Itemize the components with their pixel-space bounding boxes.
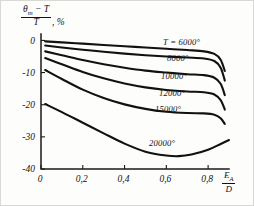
curve-label: 10000° <box>161 71 187 81</box>
figure-chart-theta-deviation: θm − T T , % EA D 0-10-20-30-40 00,20,40… <box>0 0 254 206</box>
y-tick-label: -10 <box>22 68 35 78</box>
x-tick-label: 0,4 <box>118 174 130 184</box>
x-axis-tick-labels: 00,20,40,60,8 <box>38 174 214 184</box>
curve-label: 8000° <box>167 53 189 63</box>
curve-label: 15000° <box>155 104 181 114</box>
y-tick-label: -40 <box>22 164 35 174</box>
x-tick-label: 0,8 <box>201 174 213 184</box>
x-tick-label: 0,2 <box>76 174 88 184</box>
curve-label: T = 6000° <box>163 37 201 47</box>
plot-area: 0-10-20-30-40 00,20,40,60,8 T = 6000°800… <box>1 1 254 206</box>
curve-label: 20000° <box>149 138 175 148</box>
curve-label: 12000° <box>159 88 185 98</box>
data-curve <box>45 70 225 124</box>
y-tick-label: -20 <box>22 100 35 110</box>
y-tick-label: 0 <box>30 36 35 46</box>
y-tick-label: -30 <box>22 132 35 142</box>
x-tick-label: 0,6 <box>159 174 171 184</box>
y-axis-tick-labels: 0-10-20-30-40 <box>22 36 35 175</box>
data-curve <box>45 104 229 156</box>
x-tick-label: 0 <box>38 174 43 184</box>
data-curves <box>45 41 229 156</box>
